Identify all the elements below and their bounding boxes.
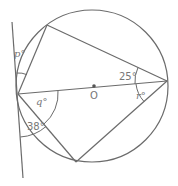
circle (16, 10, 168, 162)
chord-a-b (18, 25, 47, 94)
angle-label-r: r° (136, 90, 146, 101)
chord-b-c (47, 25, 167, 81)
angle-label-p: p° (14, 48, 25, 59)
angle-label-38: 38° (27, 121, 45, 132)
angle-arc-p (17, 73, 27, 75)
center-point (92, 84, 96, 88)
angle-label-q: q° (36, 96, 47, 107)
tangent-line (12, 22, 23, 178)
angle-label-25: 25° (119, 71, 137, 82)
center-label-o: O (90, 90, 98, 101)
circle-theorem-diagram: p° q° 38° 25° r° O (0, 0, 178, 186)
